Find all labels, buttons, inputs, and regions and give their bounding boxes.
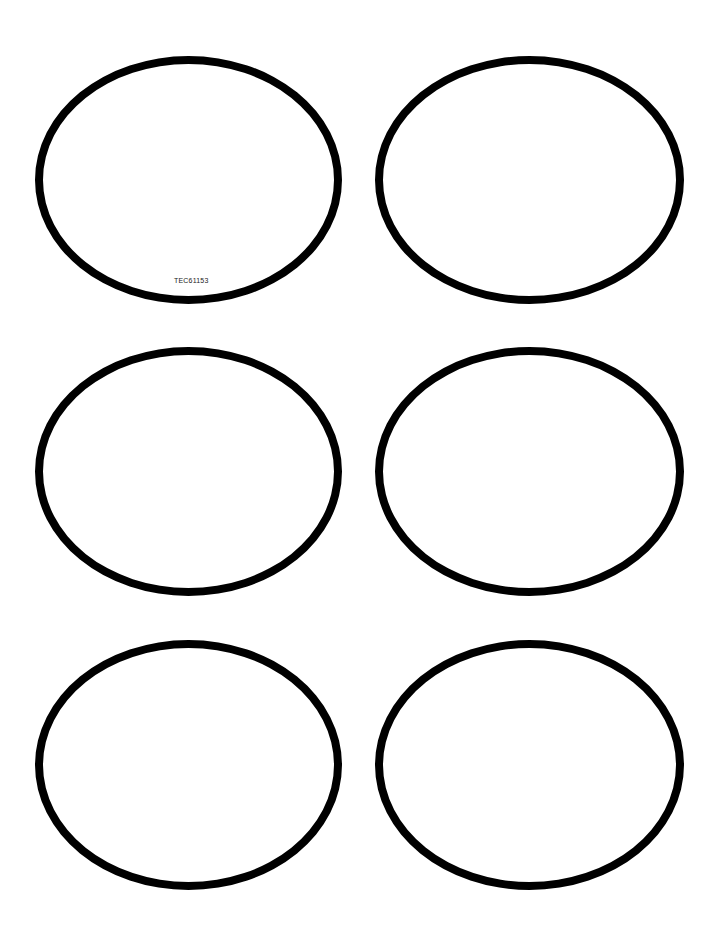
ellipse-label-bottom-left (35, 640, 342, 890)
ellipse-label-middle-left (35, 347, 342, 596)
label-code-text: TEC61153 (174, 277, 209, 284)
ellipse-label-bottom-right (375, 640, 684, 890)
ellipse-label-top-right (375, 56, 684, 304)
ellipse-label-middle-right (375, 347, 684, 596)
ellipse-label-top-left (35, 56, 342, 304)
